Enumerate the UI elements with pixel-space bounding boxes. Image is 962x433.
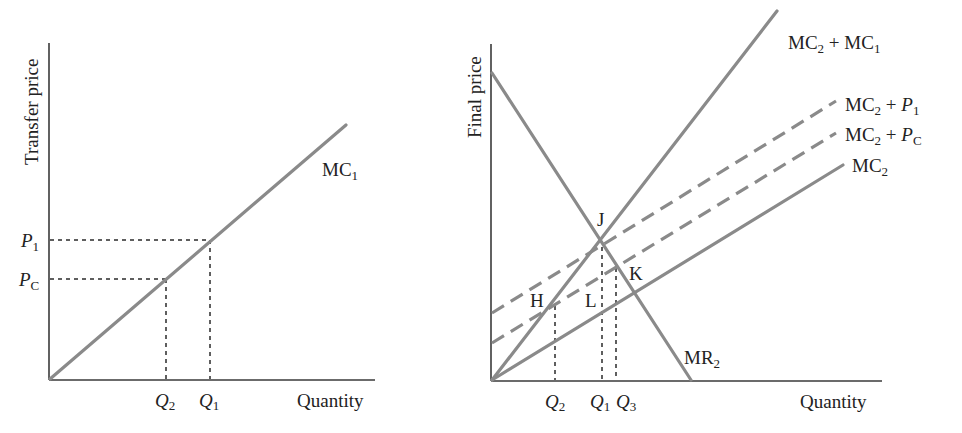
pc-tick-label: PC bbox=[18, 269, 39, 293]
point-h-label: H bbox=[530, 290, 544, 311]
mc1-curve bbox=[50, 125, 346, 379]
mc2-plus-pc-label: MC2 + PC bbox=[845, 124, 922, 148]
right-y-axis-title: Final price bbox=[464, 56, 485, 138]
left-x-axis-title: Quantity bbox=[297, 390, 364, 411]
mc2-plus-p1-curve bbox=[492, 101, 836, 313]
right-panel: Final price Quantity MC2 + MC1 MC2 + P1 … bbox=[464, 11, 922, 414]
mr2-label: MR2 bbox=[684, 347, 720, 371]
left-y-axis-title: Transfer price bbox=[21, 59, 42, 165]
mc2-plus-mc1-curve bbox=[492, 11, 777, 380]
point-k-label: K bbox=[629, 263, 643, 284]
point-j-label: J bbox=[597, 209, 604, 230]
p1-tick-label: P1 bbox=[20, 230, 39, 254]
q1-tick-label: Q1 bbox=[199, 390, 219, 413]
left-panel: Transfer price Quantity MC1 P1 PC Q2 Q1 bbox=[18, 43, 375, 413]
mc2-plus-p1-label: MC2 + P1 bbox=[845, 94, 919, 118]
mc2-label: MC2 bbox=[852, 155, 888, 179]
q2-tick-label: Q2 bbox=[155, 390, 175, 413]
point-l-label: L bbox=[585, 290, 597, 311]
mc2-plus-mc1-label: MC2 + MC1 bbox=[788, 32, 880, 56]
mc2-curve bbox=[492, 165, 843, 380]
q2-tick-label: Q2 bbox=[545, 391, 565, 414]
diagram-canvas: Transfer price Quantity MC1 P1 PC Q2 Q1 … bbox=[0, 0, 962, 433]
q3-tick-label: Q3 bbox=[616, 391, 636, 414]
mr2-curve bbox=[492, 73, 691, 380]
mc1-label: MC1 bbox=[322, 159, 358, 183]
right-x-axis-title: Quantity bbox=[800, 391, 867, 412]
q1-tick-label: Q1 bbox=[590, 391, 610, 414]
